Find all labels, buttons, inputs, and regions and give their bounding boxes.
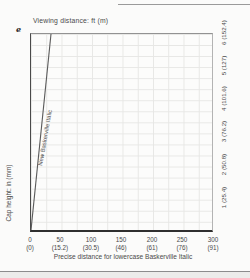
plot-area: New Baskerville Italic xyxy=(30,33,213,232)
y-axis-title: Cap height: in (mm) xyxy=(5,148,15,238)
x-tick-100: 100(30.5) xyxy=(75,236,107,252)
area-below-page xyxy=(0,272,250,278)
x-tick-250: 250(76) xyxy=(166,236,198,252)
x-tick-50: 50(15.2) xyxy=(44,236,76,252)
x-axis-title: Precise distance for lowercase Baskervil… xyxy=(25,253,221,260)
x-tick-m: (76) xyxy=(176,244,187,251)
x-tick-m: (30.5) xyxy=(83,244,99,251)
x-tick-ft: 150 xyxy=(116,236,127,243)
x-tick-ft: 100 xyxy=(86,236,97,243)
x-tick-ft: 200 xyxy=(147,236,158,243)
x-tick-ft: 0 xyxy=(28,236,32,243)
x-tick-ft: 50 xyxy=(56,236,63,243)
x-tick-m: (15.2) xyxy=(52,244,68,251)
x-tick-ft: 300 xyxy=(208,236,219,243)
x-tick-0: 0(0) xyxy=(14,236,46,252)
right-axis-label-1: 1 (25.4) xyxy=(220,176,229,220)
data-line-svg xyxy=(31,34,212,230)
x-tick-m: (91) xyxy=(207,244,218,251)
x-tick-m: (0) xyxy=(26,244,34,251)
x-tick-200: 200(61) xyxy=(136,236,168,252)
top-axis-title: Viewing distance: ft (m) xyxy=(33,17,108,24)
x-tick-300: 300(91) xyxy=(197,236,229,252)
x-tick-m: (46) xyxy=(115,244,126,251)
x-tick-ft: 250 xyxy=(177,236,188,243)
x-tick-m: (61) xyxy=(146,244,157,251)
x-tick-150: 150(46) xyxy=(105,236,137,252)
page-edge-line-top xyxy=(118,4,250,5)
lowercase-e-glyph: e xyxy=(16,24,21,34)
chart-page: Viewing distance: ft (m) e New Baskervil… xyxy=(0,0,250,278)
